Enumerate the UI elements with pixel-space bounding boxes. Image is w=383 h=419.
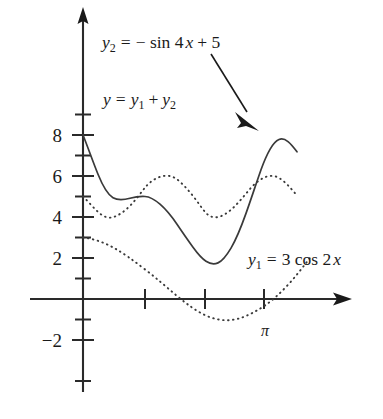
label-y1-rhs-var: x xyxy=(332,249,341,269)
curve-y2-negsin4x-plus5 xyxy=(83,176,296,218)
label-y2-rhs-var: x xyxy=(184,32,193,52)
annotation-pointer-group xyxy=(211,54,259,131)
graph-figure: 8 6 4 2 −2 π y2=− sin 4x+ 5 y=y1+y2 xyxy=(0,0,383,419)
label-sum-equation: y=y1+y2 xyxy=(101,89,176,112)
y-tick-label-8: 8 xyxy=(53,125,63,146)
label-sum-eq: = xyxy=(116,89,126,109)
label-y2-tail: + 5 xyxy=(197,32,220,52)
label-sum-t2: y xyxy=(160,89,170,109)
label-sum-t2-sub: 2 xyxy=(170,98,176,112)
label-y2-rhs: − sin 4 xyxy=(136,32,184,52)
label-y2-equation: y2=− sin 4x+ 5 xyxy=(100,32,220,55)
label-y1-eq: = xyxy=(267,249,277,269)
label-sum-t1: y xyxy=(129,89,139,109)
x-axis-pi-label: π xyxy=(261,322,270,339)
label-y2-lhs-sub: 2 xyxy=(110,41,116,55)
y-tick-label-4: 4 xyxy=(53,207,63,228)
label-sum-plus: + xyxy=(148,89,158,109)
label-y1-equation: y1=3 cos 2x xyxy=(246,249,341,272)
curve-sum-y1-plus-y2 xyxy=(83,135,297,264)
label-y2-eq: = xyxy=(121,32,131,52)
label-y2-lhs: y xyxy=(100,32,110,52)
graph-canvas: 8 6 4 2 −2 π y2=− sin 4x+ 5 y=y1+y2 xyxy=(0,0,383,419)
annotation-pointer-line xyxy=(211,54,247,112)
y-tick-label-2: 2 xyxy=(53,248,63,269)
label-y1-rhs: 3 cos 2 xyxy=(282,249,332,269)
label-y1-lhs-sub: 1 xyxy=(256,258,262,272)
annotation-pointer-arrowhead-icon xyxy=(235,112,259,131)
y-tick-label-minus-2: −2 xyxy=(42,330,62,351)
label-sum-lhs: y xyxy=(101,89,111,109)
y-tick-label-6: 6 xyxy=(53,166,63,187)
label-sum-t1-sub: 1 xyxy=(138,98,144,112)
label-y1-lhs: y xyxy=(246,249,256,269)
axes-group: 8 6 4 2 −2 π xyxy=(30,7,352,392)
